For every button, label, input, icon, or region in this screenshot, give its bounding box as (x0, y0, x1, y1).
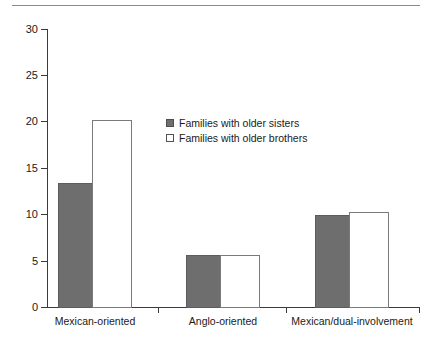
bar-brothers-anglo-oriented (220, 255, 260, 308)
legend-label-brothers: Families with older brothers (179, 132, 307, 144)
y-tick-label-10-wrap: 10 (0, 209, 38, 220)
y-tick-label-20-wrap: 20 (0, 116, 38, 127)
y-tick-label-15-wrap: 15 (0, 163, 38, 174)
x-tick-mark-2 (286, 308, 287, 313)
chart-legend: Families with older sisters Families wit… (166, 116, 307, 146)
bar-sisters-mexican-oriented (58, 183, 93, 308)
y-tick-label-30-wrap: 30 (0, 24, 38, 35)
x-category-label-anglo-oriented: Anglo-oriented (189, 315, 257, 327)
y-tick-label-5-wrap: 5 (0, 256, 38, 267)
x-tick-mark-1 (158, 308, 159, 313)
y-tick-label-20: 20 (4, 116, 38, 127)
x-category-label-mexican-oriented: Mexican-oriented (55, 315, 136, 327)
y-tick-label-0-wrap: 0 (0, 302, 38, 313)
y-tick-mark-15 (41, 168, 47, 169)
bar-sisters-anglo-oriented (186, 255, 221, 308)
y-tick-mark-10 (41, 214, 47, 215)
y-tick-label-25-wrap: 25 (0, 70, 38, 81)
top-divider-rule (12, 5, 420, 6)
y-tick-label-15: 15 (4, 163, 38, 174)
legend-label-sisters: Families with older sisters (179, 117, 299, 129)
y-tick-mark-20 (41, 121, 47, 122)
y-tick-label-30: 30 (4, 24, 38, 35)
y-tick-mark-25 (41, 75, 47, 76)
bar-chart-figure: 30 25 20 15 10 5 0 Mexican-oriented Angl… (0, 0, 432, 339)
x-category-label-mexican-dual-involvement: Mexican/dual-involvement (291, 315, 412, 327)
y-tick-mark-30 (41, 29, 47, 30)
y-tick-label-5: 5 (4, 256, 38, 267)
y-tick-label-25: 25 (4, 70, 38, 81)
bar-brothers-mexican-dual-involvement (349, 212, 389, 308)
y-tick-label-10: 10 (4, 209, 38, 220)
bar-sisters-mexican-dual-involvement (315, 215, 350, 308)
x-tick-mark-3 (419, 308, 420, 313)
legend-item-sisters: Families with older sisters (166, 116, 307, 130)
y-tick-mark-0 (41, 307, 47, 308)
bar-brothers-mexican-oriented (92, 120, 132, 308)
y-tick-mark-5 (41, 261, 47, 262)
y-axis-line (47, 29, 48, 308)
legend-swatch-hollow-icon (166, 134, 174, 142)
legend-swatch-solid-icon (166, 119, 174, 127)
y-tick-label-0: 0 (4, 302, 38, 313)
legend-item-brothers: Families with older brothers (166, 131, 307, 145)
